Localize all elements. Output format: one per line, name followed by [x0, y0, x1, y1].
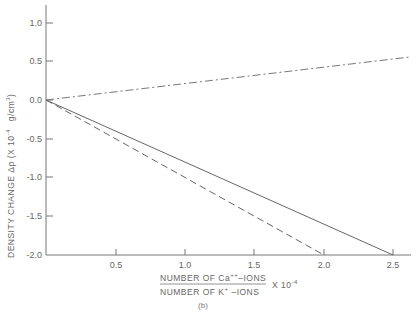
x-tick-label: 1.5	[248, 260, 261, 270]
chart: 1.0 0.5 0.0 -0.5 -1.0 -1.5 -2.0 0.5 1.0 …	[0, 0, 420, 312]
y-axis-title: DENSITY CHANGE Δρ (X 10-4g/cm3)	[5, 94, 16, 258]
y-tick-label: 0.0	[29, 95, 42, 105]
y-tick-label: 0.5	[29, 56, 42, 66]
x-axis-title: NUMBER OF Ca++–IONS NUMBER OF K+ –IONS X…	[160, 272, 298, 297]
series-dashdot-line	[46, 57, 410, 100]
y-tick-label: 1.0	[29, 18, 42, 28]
y-tick-label: -1.5	[26, 211, 42, 221]
x-tick-label: 1.0	[179, 260, 192, 270]
x-ticks	[116, 249, 393, 255]
y-ticks	[46, 23, 53, 216]
x-tick-label: 0.5	[110, 260, 123, 270]
y-tick-label: -2.0	[26, 250, 42, 260]
y-tick-label: -0.5	[26, 134, 42, 144]
x-axis-numerator: NUMBER OF Ca++–IONS	[160, 272, 266, 283]
x-tick-label: 2.5	[387, 260, 400, 270]
figure-caption: (b)	[198, 301, 208, 310]
x-tick-label: 2.0	[318, 260, 331, 270]
x-axis-denominator: NUMBER OF K+ –IONS	[160, 286, 259, 297]
series-dashed-line	[46, 100, 324, 255]
x-tick-labels: 0.5 1.0 1.5 2.0 2.5	[110, 260, 400, 270]
x-axis-scale: X 10-4	[272, 279, 298, 290]
y-tick-label: -1.0	[26, 172, 42, 182]
series-solid-line	[46, 100, 393, 255]
y-tick-labels: 1.0 0.5 0.0 -0.5 -1.0 -1.5 -2.0	[26, 18, 42, 260]
